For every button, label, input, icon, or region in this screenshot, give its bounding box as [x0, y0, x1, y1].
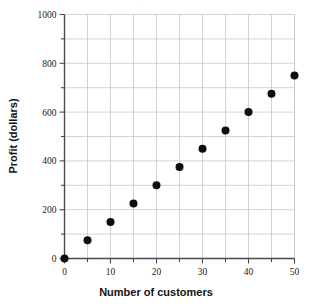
- x-tick-label: 0: [62, 267, 67, 277]
- data-point: [84, 236, 92, 244]
- data-point: [291, 72, 299, 80]
- grid-lines: [65, 15, 295, 259]
- y-tick-label: 800: [42, 59, 57, 69]
- data-point: [245, 108, 253, 116]
- x-tick-label: 40: [244, 267, 254, 277]
- x-tick-label: 20: [152, 267, 162, 277]
- x-axis-title: Number of customers: [0, 286, 312, 298]
- scatter-plot: 0200400600800100001020304050: [0, 0, 312, 306]
- y-tick-label: 600: [42, 108, 57, 118]
- x-tick-label: 30: [198, 267, 208, 277]
- y-tick-label: 0: [52, 254, 57, 264]
- data-point: [107, 218, 115, 226]
- data-point: [176, 163, 184, 171]
- data-point: [153, 181, 161, 189]
- data-point: [199, 145, 207, 153]
- data-point: [130, 200, 138, 208]
- x-tick-label: 10: [106, 267, 116, 277]
- y-tick-label: 400: [42, 156, 57, 166]
- x-tick-label: 50: [290, 267, 300, 277]
- data-point: [222, 126, 230, 134]
- y-tick-label: 200: [42, 205, 57, 215]
- y-tick-label: 1000: [38, 10, 57, 20]
- data-point: [268, 90, 276, 98]
- data-point: [61, 255, 69, 263]
- chart-figure: Profit per Customer 02004006008001000010…: [0, 0, 312, 306]
- axis-ticks: [60, 15, 295, 264]
- y-axis-title: Profit (dollars): [7, 71, 19, 201]
- tick-labels: 0200400600800100001020304050: [38, 10, 300, 277]
